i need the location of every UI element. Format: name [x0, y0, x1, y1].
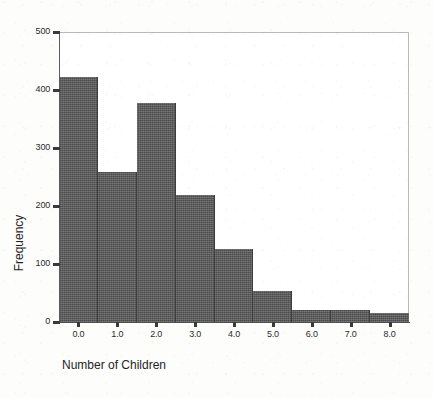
histogram-bar — [137, 103, 176, 322]
x-axis-tick-label: 8.0 — [377, 329, 403, 339]
x-axis-tick — [116, 322, 119, 327]
x-axis-tick — [389, 322, 392, 327]
histogram-bar — [292, 310, 331, 322]
y-axis-title: Frequency — [12, 198, 26, 288]
histogram-bar — [176, 195, 215, 322]
x-axis-tick — [194, 322, 197, 327]
histogram-bar — [59, 77, 98, 322]
x-axis-tick-label: 7.0 — [338, 329, 364, 339]
y-axis-tick — [53, 31, 60, 34]
x-axis-title: Number of Children — [62, 358, 166, 372]
x-axis-tick-label: 5.0 — [260, 329, 286, 339]
chart-page: 0100200300400500 0.01.02.03.04.05.06.07.… — [0, 0, 433, 398]
histogram-bar — [215, 249, 254, 322]
x-axis-tick-label: 4.0 — [221, 329, 247, 339]
y-axis-tick-label: 500 — [20, 26, 50, 36]
x-axis-tick — [311, 322, 314, 327]
y-axis-tick — [53, 89, 60, 92]
x-axis-tick-label: 6.0 — [299, 329, 325, 339]
y-axis-tick-label: 300 — [20, 142, 50, 152]
y-axis-tick-label: 0 — [20, 316, 50, 326]
histogram-bar — [253, 291, 292, 322]
bars-layer — [59, 32, 409, 322]
x-axis-tick-label: 1.0 — [104, 329, 130, 339]
x-axis-tick — [350, 322, 353, 327]
y-axis-tick-label: 400 — [20, 84, 50, 94]
x-axis-tick — [77, 322, 80, 327]
y-axis-line — [59, 32, 60, 323]
x-axis-tick-label: 2.0 — [143, 329, 169, 339]
y-axis-tick — [53, 205, 60, 208]
y-axis-tick — [53, 321, 60, 324]
histogram-chart: 0100200300400500 0.01.02.03.04.05.06.07.… — [0, 0, 433, 398]
y-axis-tick — [53, 263, 60, 266]
x-axis-tick-label: 0.0 — [65, 329, 91, 339]
x-axis-tick-label: 3.0 — [182, 329, 208, 339]
x-axis-tick — [155, 322, 158, 327]
histogram-bar — [370, 313, 409, 322]
histogram-bar — [331, 310, 370, 322]
x-axis-tick — [272, 322, 275, 327]
x-axis-tick — [233, 322, 236, 327]
histogram-bar — [98, 172, 137, 322]
y-axis-tick — [53, 147, 60, 150]
